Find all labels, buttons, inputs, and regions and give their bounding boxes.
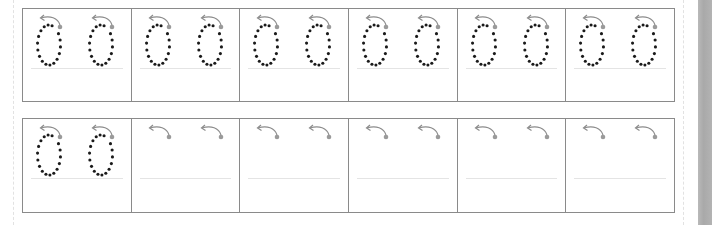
- zero-start-guide: [405, 121, 449, 179]
- dotted-zero-trace: [514, 11, 558, 69]
- start-point-dot-icon: [327, 135, 332, 140]
- dotted-zero-trace: [405, 11, 449, 69]
- start-point-dot-icon: [384, 25, 389, 30]
- counterclockwise-arrow-icon: [367, 127, 386, 135]
- counterclockwise-arrow-icon: [528, 127, 547, 135]
- start-point-dot-icon: [275, 135, 280, 140]
- dotted-zero-trace: [570, 11, 614, 69]
- counterclockwise-arrow-icon: [93, 17, 112, 25]
- counterclockwise-arrow-icon: [150, 127, 169, 135]
- page-margin-guide-right: [683, 0, 684, 225]
- zero-start-guide: [188, 121, 232, 179]
- practice-cell[interactable]: [23, 119, 132, 212]
- start-point-dot-icon: [601, 25, 606, 30]
- counterclockwise-arrow-icon: [258, 17, 277, 25]
- page-margin-guide-left: [13, 0, 14, 225]
- start-point-dot-icon: [110, 135, 115, 140]
- start-point-dot-icon: [327, 25, 332, 30]
- counterclockwise-arrow-icon: [202, 17, 221, 25]
- counterclockwise-arrow-icon: [93, 127, 112, 135]
- counterclockwise-arrow-icon: [419, 127, 438, 135]
- dotted-zero-trace: [79, 121, 123, 179]
- dotted-zero-trace: [27, 11, 71, 69]
- counterclockwise-arrow-icon: [584, 127, 603, 135]
- practice-cell[interactable]: [23, 9, 132, 101]
- practice-cell[interactable]: [566, 119, 674, 212]
- practice-cell[interactable]: [240, 9, 349, 101]
- counterclockwise-arrow-icon: [636, 127, 655, 135]
- start-point-dot-icon: [275, 25, 280, 30]
- dotted-zero-trace: [296, 11, 340, 69]
- scrollbar[interactable]: [698, 0, 712, 225]
- practice-cell[interactable]: [566, 9, 674, 101]
- counterclockwise-arrow-icon: [41, 17, 60, 25]
- counterclockwise-arrow-icon: [150, 17, 169, 25]
- counterclockwise-arrow-icon: [636, 17, 655, 25]
- practice-cell[interactable]: [349, 119, 458, 212]
- start-point-dot-icon: [601, 135, 606, 140]
- practice-cell[interactable]: [240, 119, 349, 212]
- counterclockwise-arrow-icon: [476, 17, 495, 25]
- start-point-dot-icon: [653, 25, 658, 30]
- practice-cell[interactable]: [458, 119, 567, 212]
- start-point-dot-icon: [544, 135, 549, 140]
- start-point-dot-icon: [384, 135, 389, 140]
- practice-row-2: [22, 118, 675, 213]
- practice-cell[interactable]: [458, 9, 567, 101]
- counterclockwise-arrow-icon: [528, 17, 547, 25]
- start-point-dot-icon: [110, 25, 115, 30]
- practice-cell[interactable]: [349, 9, 458, 101]
- counterclockwise-arrow-icon: [202, 127, 221, 135]
- dotted-zero-trace: [136, 11, 180, 69]
- counterclockwise-arrow-icon: [367, 17, 386, 25]
- counterclockwise-arrow-icon: [584, 17, 603, 25]
- practice-row-1: [22, 8, 675, 102]
- start-point-dot-icon: [58, 25, 63, 30]
- practice-cell[interactable]: [132, 119, 241, 212]
- start-point-dot-icon: [166, 135, 171, 140]
- zero-start-guide: [514, 121, 558, 179]
- start-point-dot-icon: [436, 25, 441, 30]
- zero-start-guide: [570, 121, 614, 179]
- dotted-zero-trace: [188, 11, 232, 69]
- dotted-zero-trace: [27, 121, 71, 179]
- start-point-dot-icon: [492, 135, 497, 140]
- zero-start-guide: [136, 121, 180, 179]
- counterclockwise-arrow-icon: [476, 127, 495, 135]
- dotted-zero-trace: [79, 11, 123, 69]
- dotted-zero-trace: [622, 11, 666, 69]
- dotted-zero-trace: [244, 11, 288, 69]
- start-point-dot-icon: [58, 135, 63, 140]
- zero-start-guide: [244, 121, 288, 179]
- counterclockwise-arrow-icon: [258, 127, 277, 135]
- counterclockwise-arrow-icon: [310, 17, 329, 25]
- dotted-zero-trace: [462, 11, 506, 69]
- start-point-dot-icon: [166, 25, 171, 30]
- counterclockwise-arrow-icon: [41, 127, 60, 135]
- dotted-zero-trace: [353, 11, 397, 69]
- zero-start-guide: [622, 121, 666, 179]
- start-point-dot-icon: [218, 25, 223, 30]
- start-point-dot-icon: [544, 25, 549, 30]
- zero-start-guide: [296, 121, 340, 179]
- start-point-dot-icon: [218, 135, 223, 140]
- start-point-dot-icon: [492, 25, 497, 30]
- counterclockwise-arrow-icon: [419, 17, 438, 25]
- start-point-dot-icon: [436, 135, 441, 140]
- counterclockwise-arrow-icon: [310, 127, 329, 135]
- start-point-dot-icon: [653, 135, 658, 140]
- zero-start-guide: [462, 121, 506, 179]
- practice-cell[interactable]: [132, 9, 241, 101]
- zero-start-guide: [353, 121, 397, 179]
